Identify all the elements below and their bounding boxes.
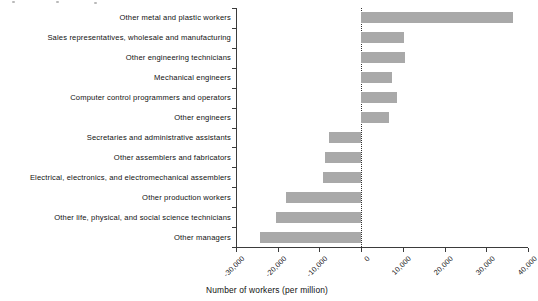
x-tick-label: 30,000 (474, 254, 497, 277)
x-axis-line (236, 247, 528, 248)
x-axis-tick (278, 248, 279, 252)
bar (361, 72, 392, 83)
y-axis-tick (232, 88, 236, 89)
bar (361, 112, 389, 123)
x-axis-tick (528, 248, 529, 252)
x-axis-tick (486, 248, 487, 252)
x-axis-tick (445, 248, 446, 252)
category-label: Secretaries and administrative assistant… (0, 133, 231, 142)
x-tick-label: 0 (362, 254, 371, 263)
bar (361, 32, 404, 43)
bar (325, 152, 361, 163)
category-label: Electrical, electronics, and electromech… (0, 173, 231, 182)
x-tick-label: 10,000 (390, 254, 413, 277)
x-axis-tick (361, 248, 362, 252)
bar (361, 92, 397, 103)
category-label: Mechanical engineers (0, 73, 231, 82)
y-axis-tick (232, 8, 236, 9)
artifact-mark (56, 1, 59, 3)
x-tick-label: 40,000 (515, 254, 538, 277)
x-axis-title: Number of workers (per million) (0, 285, 534, 295)
category-label: Other managers (0, 233, 231, 242)
category-label: Other engineering technicians (0, 53, 231, 62)
category-axis-labels: Other metal and plastic workersSales rep… (0, 8, 231, 247)
category-label: Computer control programmers and operato… (0, 93, 231, 102)
bar (260, 232, 361, 243)
plot-area (236, 8, 528, 247)
x-axis-tick (403, 248, 404, 252)
bar (361, 52, 405, 63)
y-axis-tick (232, 68, 236, 69)
x-tick-label: -30,000 (222, 254, 247, 279)
category-label: Sales representatives, wholesale and man… (0, 33, 231, 42)
y-axis-tick (232, 28, 236, 29)
category-label: Other engineers (0, 113, 231, 122)
x-axis-tick (319, 248, 320, 252)
bar (286, 192, 362, 203)
y-axis-line (236, 8, 237, 247)
artifact-mark (12, 1, 15, 3)
x-axis-tick (236, 248, 237, 252)
y-axis-tick (232, 108, 236, 109)
category-label: Other assemblers and fabricators (0, 153, 231, 162)
category-label: Other metal and plastic workers (0, 13, 231, 22)
y-axis-tick (232, 147, 236, 148)
y-axis-tick (232, 227, 236, 228)
zero-reference-line (361, 8, 362, 247)
y-axis-tick (232, 207, 236, 208)
bar (276, 212, 362, 223)
x-tick-label: -10,000 (305, 254, 330, 279)
category-label: Other production workers (0, 193, 231, 202)
y-axis-tick (232, 48, 236, 49)
x-tick-label: 20,000 (432, 254, 455, 277)
category-label: Other life, physical, and social science… (0, 213, 231, 222)
y-axis-tick (232, 187, 236, 188)
bar (361, 12, 513, 23)
bar (323, 172, 361, 183)
y-axis-tick (232, 128, 236, 129)
artifact-mark (94, 2, 97, 4)
x-tick-label: -20,000 (263, 254, 288, 279)
y-axis-tick (232, 167, 236, 168)
bar (329, 132, 361, 143)
top-crop-artifacts (0, 0, 534, 6)
